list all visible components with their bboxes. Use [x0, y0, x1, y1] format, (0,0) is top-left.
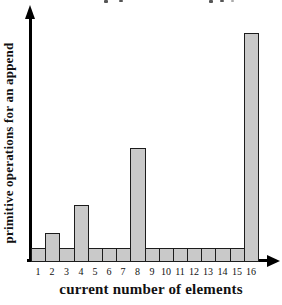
- x-tick-label-15: 15: [230, 266, 244, 278]
- x-axis-title: current number of elements: [31, 281, 271, 298]
- x-tick-label-9: 9: [145, 266, 159, 278]
- bar-n11: [173, 248, 188, 262]
- x-tick-label-4: 4: [74, 266, 88, 278]
- cropped-text-fragment: [119, 0, 123, 2]
- x-tick-label-11: 11: [173, 266, 187, 278]
- x-tick-label-1: 1: [31, 266, 45, 278]
- bar-n14: [215, 248, 231, 262]
- x-tick-label-13: 13: [201, 266, 215, 278]
- x-tick-label-8: 8: [130, 266, 145, 278]
- x-tick-label-12: 12: [187, 266, 201, 278]
- bar-n7: [116, 248, 131, 262]
- bar-n10: [159, 248, 174, 262]
- x-tick-label-2: 2: [45, 266, 59, 278]
- bar-n6: [102, 248, 117, 262]
- bar-n12: [187, 248, 202, 262]
- bar-chart-figure: 12345678910111213141516 current number o…: [0, 0, 282, 305]
- bar-n15: [230, 248, 245, 262]
- bar-n2: [45, 233, 60, 262]
- cropped-text-fragment: [209, 0, 213, 3]
- bar-n8: [130, 148, 146, 262]
- x-tick-label-3: 3: [59, 266, 74, 278]
- bar-n4: [74, 205, 89, 262]
- x-tick-label-14: 14: [215, 266, 230, 278]
- x-tick-label-7: 7: [116, 266, 130, 278]
- x-tick-label-6: 6: [102, 266, 116, 278]
- y-axis-line: [29, 13, 32, 262]
- x-tick-label-5: 5: [88, 266, 102, 278]
- bar-n1: [31, 248, 46, 262]
- bar-n16: [244, 33, 259, 262]
- bar-n9: [145, 248, 160, 262]
- bar-n13: [201, 248, 216, 262]
- x-tick-label-16: 16: [244, 266, 258, 278]
- cropped-text-fragment: [220, 0, 224, 2]
- bar-n3: [59, 248, 75, 262]
- y-axis-arrowhead-icon: [25, 5, 35, 19]
- cropped-text-fragment: [104, 0, 108, 3]
- cropped-text-fragment: [231, 0, 234, 2]
- bar-n5: [88, 248, 103, 262]
- x-axis-arrowhead-icon: [267, 255, 280, 267]
- x-tick-label-10: 10: [159, 266, 173, 278]
- y-axis-title-text: primitive operations for an append: [2, 43, 18, 244]
- y-axis-title: primitive operations for an append: [1, 28, 18, 258]
